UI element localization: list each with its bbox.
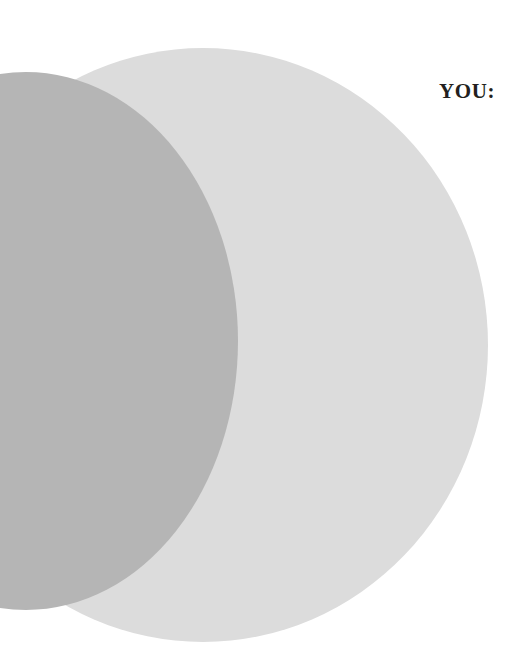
- page-title: YOU:: [439, 79, 495, 104]
- ellipse-icon-light: [0, 48, 488, 642]
- ellipse-icon-dark: [0, 72, 238, 610]
- page-canvas: YOU:: [0, 0, 530, 659]
